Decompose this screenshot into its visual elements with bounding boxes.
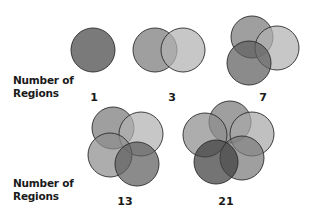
- region-count-3: 3: [168, 92, 176, 104]
- region-count-1: 1: [90, 92, 98, 104]
- venn-circle: [161, 28, 205, 72]
- venn-circle: [71, 28, 115, 72]
- region-count-7: 7: [259, 92, 267, 104]
- venn-circle: [194, 140, 238, 184]
- region-count-21: 21: [218, 196, 233, 208]
- venn-diagram-13-regions: [88, 107, 163, 186]
- venn-diagram-7-regions: [227, 16, 299, 85]
- row1-label-regions: Regions: [13, 87, 59, 99]
- venn-circle: [227, 41, 271, 85]
- row1-label-number-of: Number of: [13, 74, 74, 86]
- region-count-13: 13: [117, 196, 132, 208]
- venn-diagram-1-regions: [71, 28, 115, 72]
- row2-label-regions: Regions: [13, 190, 59, 202]
- row2-label-number-of: Number of: [13, 177, 74, 189]
- venn-circle: [115, 142, 159, 186]
- venn-diagram-3-regions: [133, 28, 205, 72]
- venn-diagram-21-regions: [183, 101, 274, 184]
